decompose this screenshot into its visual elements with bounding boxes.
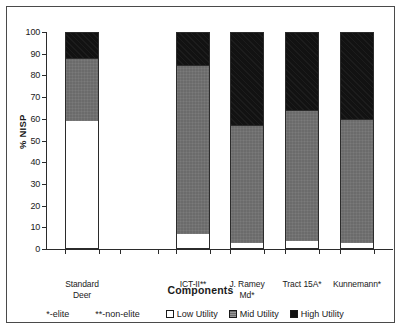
y-tick-mark bbox=[42, 32, 46, 33]
bar-segment-high bbox=[340, 32, 374, 119]
bar-3[interactable] bbox=[230, 32, 264, 249]
bar-stack bbox=[65, 32, 99, 249]
y-tick-mark bbox=[42, 227, 46, 228]
bar-4[interactable] bbox=[285, 32, 319, 249]
legend-swatch-low-utility-icon bbox=[166, 310, 174, 318]
bar-segment-low bbox=[285, 241, 319, 249]
y-tick-mark bbox=[42, 206, 46, 207]
y-tick-mark bbox=[42, 162, 46, 163]
y-tick-label: 60 bbox=[30, 114, 40, 123]
y-axis-line bbox=[46, 32, 47, 250]
figure-frame: % NISP 0102030405060708090100 Standard D… bbox=[6, 6, 395, 323]
bar-stack bbox=[230, 32, 264, 249]
bar-segment-high bbox=[285, 32, 319, 110]
y-tick-label: 20 bbox=[30, 201, 40, 210]
legend-label-low-utility: Low Utility bbox=[177, 309, 218, 319]
legend-label-high-utility: High Utility bbox=[301, 309, 344, 319]
plot-area: 0102030405060708090100 Standard DeerICT-… bbox=[46, 32, 393, 250]
bar-5[interactable] bbox=[340, 32, 374, 249]
y-tick-label: 30 bbox=[30, 179, 40, 188]
y-tick-label: 50 bbox=[30, 136, 40, 145]
y-tick-mark bbox=[42, 97, 46, 98]
y-tick-label: 100 bbox=[26, 28, 40, 37]
x-tick-mark bbox=[264, 250, 265, 254]
bar-segment-low bbox=[230, 243, 264, 250]
y-tick-mark bbox=[42, 141, 46, 142]
legend-item-low-utility: Low Utility bbox=[166, 309, 218, 319]
bar-segment-low bbox=[340, 243, 374, 250]
bar-1[interactable] bbox=[65, 32, 99, 249]
x-tick-mark bbox=[340, 250, 341, 254]
bar-segment-mid bbox=[230, 125, 264, 242]
legend: *-elite **-non-elite Low Utility Mid Uti… bbox=[7, 309, 394, 319]
bar-segment-mid bbox=[65, 58, 99, 121]
bar-segment-mid bbox=[176, 65, 210, 234]
y-tick-label: 0 bbox=[35, 245, 40, 254]
x-tick-mark bbox=[285, 250, 286, 254]
x-tick-mark bbox=[65, 250, 66, 254]
bar-stack bbox=[285, 32, 319, 249]
x-tick-mark bbox=[210, 250, 211, 254]
legend-item-mid-utility: Mid Utility bbox=[229, 309, 279, 319]
y-tick-label: 90 bbox=[30, 49, 40, 58]
x-tick-mark bbox=[319, 250, 320, 254]
y-tick-label: 40 bbox=[30, 158, 40, 167]
bar-stack bbox=[176, 32, 210, 249]
x-axis-title: Components bbox=[7, 284, 394, 296]
y-tick-mark bbox=[42, 184, 46, 185]
bar-segment-mid bbox=[340, 119, 374, 243]
legend-item-high-utility: High Utility bbox=[290, 309, 344, 319]
legend-swatch-high-utility-icon bbox=[290, 310, 298, 318]
y-tick-label: 70 bbox=[30, 93, 40, 102]
y-tick-mark bbox=[42, 119, 46, 120]
y-tick-mark bbox=[42, 249, 46, 250]
bar-segment-high bbox=[65, 32, 99, 58]
x-tick-mark bbox=[230, 250, 231, 254]
x-tick-mark bbox=[120, 250, 121, 254]
y-axis-title: % NISP bbox=[17, 115, 28, 149]
y-tick-mark bbox=[42, 54, 46, 55]
bar-segment-mid bbox=[285, 110, 319, 241]
x-tick-mark bbox=[176, 250, 177, 254]
y-tick-label: 80 bbox=[30, 71, 40, 80]
x-tick-mark bbox=[99, 250, 100, 254]
note-elite: *-elite bbox=[46, 309, 69, 319]
bar-segment-low bbox=[176, 234, 210, 249]
bar-2[interactable] bbox=[176, 32, 210, 249]
x-tick-mark bbox=[158, 250, 159, 254]
note-non-elite: **-non-elite bbox=[95, 309, 140, 319]
x-tick-mark bbox=[374, 250, 375, 254]
y-tick-label: 10 bbox=[30, 223, 40, 232]
bar-segment-high bbox=[176, 32, 210, 65]
legend-label-mid-utility: Mid Utility bbox=[240, 309, 279, 319]
bar-segment-low bbox=[65, 121, 99, 249]
legend-swatch-mid-utility-icon bbox=[229, 310, 237, 318]
bar-stack bbox=[340, 32, 374, 249]
y-tick-mark bbox=[42, 75, 46, 76]
bar-segment-high bbox=[230, 32, 264, 125]
